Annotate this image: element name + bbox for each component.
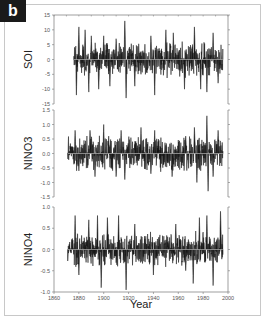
xtick-label: 1960 [172, 295, 184, 301]
nino3-ytick-label: 1.5 [42, 107, 50, 113]
nino3-panel: 1.51.00.50.0-0.5-1.0-1.5NINO3 [22, 107, 230, 200]
nino3-ylabel: NINO3 [22, 137, 34, 171]
nino4-series [68, 211, 223, 290]
xtick-label: 1880 [73, 295, 85, 301]
nino3-ytick-label: 0.0 [42, 151, 50, 157]
nino4-ytick-label: 0.5 [42, 225, 50, 231]
nino4-ytick-label: -0.5 [41, 268, 50, 274]
soi-ytick-label: 15 [44, 12, 50, 18]
soi-ylabel: SOI [22, 50, 34, 69]
x-axis-label: Year [130, 298, 153, 310]
nino3-ytick-label: -0.5 [41, 165, 50, 171]
soi-ytick-label: -5 [45, 71, 50, 77]
soi-ytick-label: 10 [44, 27, 50, 33]
soi-panel: 151050-5-10-15SOI [22, 12, 230, 107]
stacked-timeseries-chart: 151050-5-10-15SOI 1.51.00.50.0-0.5-1.0-1… [0, 0, 264, 319]
xtick-label: 2000 [222, 295, 234, 301]
nino4-ylabel: NINO4 [22, 233, 34, 267]
xtick-label: 1900 [98, 295, 110, 301]
nino3-ytick-label: 0.5 [42, 136, 50, 142]
soi-ytick-label: -10 [42, 86, 50, 92]
nino3-ytick-label: -1.5 [41, 194, 50, 200]
nino4-ytick-label: 1.0 [42, 204, 50, 210]
xtick-label: 1980 [197, 295, 209, 301]
nino3-ytick-label: -1.0 [41, 180, 50, 186]
nino4-ytick-label: 0.0 [42, 247, 50, 253]
nino4-panel: 1.00.50.0-0.5-1.0NINO4 [22, 204, 230, 295]
nino3-ytick-label: 1.0 [42, 122, 50, 128]
soi-ytick-label: 0 [47, 57, 50, 63]
xtick-label: 1860 [48, 295, 60, 301]
soi-ytick-label: 5 [47, 42, 50, 48]
